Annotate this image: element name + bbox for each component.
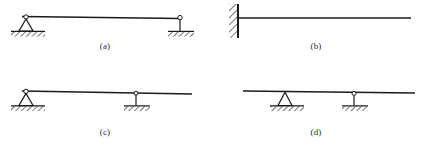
panel-c-drawing bbox=[0, 75, 210, 150]
panel-a-drawing bbox=[0, 0, 210, 75]
panel-b-cantilever-beam: (b) bbox=[211, 0, 421, 75]
link-support-icon bbox=[342, 91, 368, 111]
panel-d-beam-with-two-overhangs: (d) bbox=[211, 75, 421, 150]
beam-member bbox=[243, 91, 415, 93]
beam-support-figure: (a) (b) bbox=[0, 0, 421, 150]
panel-c-caption: (c) bbox=[0, 127, 210, 137]
panel-a-caption: (a) bbox=[0, 41, 210, 51]
panel-c-beam-with-one-overhang: (c) bbox=[0, 75, 210, 150]
panel-b-drawing bbox=[211, 0, 421, 75]
pin-support-icon bbox=[270, 92, 304, 111]
link-support-icon bbox=[124, 91, 150, 111]
pin-support-icon bbox=[11, 15, 45, 37]
pin-support-icon bbox=[11, 89, 45, 111]
panel-a-simply-supported-beam: (a) bbox=[0, 0, 210, 75]
panel-d-drawing bbox=[211, 75, 421, 150]
panel-d-caption: (d) bbox=[211, 127, 421, 137]
beam-member bbox=[22, 17, 180, 19]
fixed-wall-support-icon bbox=[229, 4, 238, 38]
beam-member bbox=[22, 91, 192, 94]
panel-b-caption: (b) bbox=[211, 41, 421, 51]
